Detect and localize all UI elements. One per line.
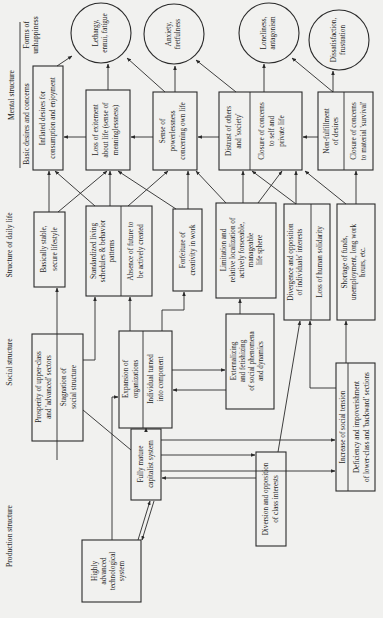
box-loss-of-excitement: Loss of exitement about life (sense of m… — [86, 90, 130, 170]
unhappiness-circles: Lethargy, ennui, fatigue Anxiety, fretfu… — [71, 3, 369, 70]
svg-text:of individuals' interests: of individuals' interests — [296, 228, 304, 295]
svg-text:be actively created: be actively created — [137, 224, 145, 278]
box-powerlessness: Sense of powerlessness concerning own li… — [153, 92, 197, 170]
circle-lethargy: Lethargy, ennui, fatigue — [71, 3, 131, 63]
svg-text:schedules & behavior: schedules & behavior — [99, 219, 107, 282]
svg-text:to material 'survival': to material 'survival' — [360, 102, 368, 160]
svg-text:Loss of exitement: Loss of exitement — [92, 104, 100, 156]
box-capitalist-system: Fully mature capitalist system — [131, 429, 161, 500]
svg-text:life sphere: life sphere — [256, 235, 264, 265]
label-daily-life: Structure of daily life — [5, 212, 14, 278]
svg-text:secure lifestyle: secure lifestyle — [51, 227, 59, 270]
daily-life-boxes: Basically stable, secure lifestyle Stand… — [34, 203, 375, 320]
svg-text:consumption and enjoyment: consumption and enjoyment — [49, 77, 57, 158]
box-inflated-desires: Inflated desires for consumption and enj… — [33, 66, 63, 170]
svg-text:Lethargy,: Lethargy, — [92, 19, 100, 46]
svg-text:actively forseeable,: actively forseeable, — [238, 222, 246, 278]
label-forms-2: unhappiness — [31, 16, 40, 54]
svg-text:and 'advanced' sectors: and 'advanced' sectors — [45, 355, 53, 419]
social-boxes: Prosperity of upper-class and 'advanced'… — [32, 314, 375, 491]
circle-loneliness: Loneliness, antagonism — [239, 3, 299, 63]
svg-text:Distrust of others: Distrust of others — [225, 106, 233, 156]
svg-text:unemployment, long work: unemployment, long work — [350, 224, 358, 300]
svg-text:hours, etc.: hours, etc. — [359, 247, 367, 277]
svg-text:Expansion of: Expansion of — [122, 359, 130, 398]
svg-text:ennui, fatigue: ennui, fatigue — [101, 13, 109, 53]
circle-dissatisfaction: Dissatisfaction, frustration — [309, 10, 369, 70]
box-stable-lifestyle: Basically stable, secure lifestyle — [34, 212, 65, 287]
svg-text:manageable: manageable — [247, 233, 255, 267]
box-diversion-class: Diversion and opposition of class intere… — [256, 452, 286, 546]
svg-text:powerlessness: powerlessness — [169, 110, 177, 151]
svg-text:of desires: of desires — [332, 117, 340, 145]
svg-text:creativity in work: creativity in work — [189, 224, 197, 276]
box-limitation: Limitation and relative localization of … — [216, 203, 276, 298]
svg-text:Highly: Highly — [91, 561, 99, 581]
svg-text:Basically stable,: Basically stable, — [40, 225, 48, 272]
svg-text:Individual turned: Individual turned — [147, 354, 155, 404]
svg-text:Increase of social tension: Increase of social tension — [339, 390, 347, 463]
svg-text:Loss of human solidarity: Loss of human solidarity — [316, 226, 324, 298]
svg-text:technological: technological — [109, 552, 117, 591]
row-labels: Mental structure Forms of unhappiness Ba… — [5, 16, 40, 567]
svg-text:Non-fulfillment: Non-fulfillment — [323, 108, 331, 154]
svg-text:Dissatisfaction,: Dissatisfaction, — [330, 18, 338, 63]
label-forms-1: Forms of — [22, 21, 31, 49]
svg-text:social structure: social structure — [70, 365, 78, 409]
svg-text:Loneliness,: Loneliness, — [260, 16, 268, 49]
svg-text:to self and: to self and — [268, 116, 276, 146]
svg-text:Absence of future to: Absence of future to — [127, 221, 135, 280]
label-mental-structure: Mental structure — [7, 69, 16, 120]
box-distrust-closure: Distrust of others and 'society' Closure… — [219, 92, 302, 170]
label-basic-desires: Basic desires and concerns — [22, 83, 31, 165]
box-tension-deficiency: Increase of social tension Deficiency an… — [336, 363, 375, 491]
svg-text:fretfulness: fretfulness — [174, 19, 182, 50]
svg-text:of class interests: of class interests — [272, 475, 280, 523]
svg-text:Inflated desires for: Inflated desires for — [39, 90, 47, 145]
svg-text:frustration: frustration — [339, 25, 347, 55]
circle-anxiety: Anxiety, fretfulness — [144, 4, 204, 64]
svg-text:Diversion and opposition: Diversion and opposition — [262, 462, 270, 535]
svg-text:private life: private life — [278, 115, 286, 146]
svg-text:Fully mature: Fully mature — [137, 446, 145, 483]
svg-text:capitalist system: capitalist system — [147, 440, 155, 488]
box-expansion-individual: Expansion of organizations Individual tu… — [119, 331, 172, 428]
svg-text:relative localization of: relative localization of — [229, 217, 237, 282]
svg-text:about life (sense of: about life (sense of — [102, 102, 110, 157]
svg-text:Standardized living: Standardized living — [90, 223, 98, 279]
svg-text:of social phenomena: of social phenomena — [248, 330, 256, 390]
box-divergence-solidarity: Divergence and opposition of individuals… — [284, 204, 330, 320]
svg-text:into component: into component — [157, 357, 165, 402]
box-technological-system: Highly advanced technological system — [82, 540, 141, 602]
box-nonfulfillment-survival: Non-fulfillment of desires Closure of co… — [318, 92, 373, 170]
svg-text:patterns: patterns — [108, 239, 116, 262]
svg-text:Shortage of funds,: Shortage of funds, — [341, 235, 349, 288]
svg-text:Sense of: Sense of — [159, 118, 167, 143]
svg-text:Externalizing: Externalizing — [230, 341, 238, 380]
flow-diagram: Mental structure Forms of unhappiness Ba… — [0, 0, 383, 618]
label-production-structure: Production structure — [5, 504, 14, 566]
svg-text:concerning own life: concerning own life — [179, 102, 187, 159]
svg-text:and dynamics: and dynamics — [257, 341, 265, 381]
svg-text:of lower-class and 'backward': of lower-class and 'backward' sections — [363, 372, 371, 482]
diagram-canvas: Mental structure Forms of unhappiness Ba… — [0, 0, 383, 618]
svg-text:Closure of concerns: Closure of concerns — [350, 102, 358, 160]
svg-text:organizations: organizations — [132, 360, 140, 399]
svg-text:Deficiency and impoverishment: Deficiency and impoverishment — [353, 381, 361, 473]
svg-text:system: system — [118, 561, 126, 581]
box-prosperity-stagnation: Prosperity of upper-class and 'advanced'… — [32, 334, 83, 441]
svg-text:and fetishizing: and fetishizing — [239, 339, 247, 382]
box-standardized-absence: Standardized living schedules & behavior… — [86, 206, 152, 296]
svg-text:Prosperity of upper-class: Prosperity of upper-class — [35, 351, 43, 423]
svg-text:and 'society': and 'society' — [235, 113, 243, 148]
svg-text:Closure of concerns: Closure of concerns — [258, 102, 266, 160]
label-social-structure: Social structure — [5, 338, 14, 386]
svg-text:Divergence and opposition: Divergence and opposition — [287, 223, 295, 301]
box-externalizing: Externalizing and fetishizing of social … — [226, 314, 274, 409]
svg-text:antagonism: antagonism — [269, 16, 277, 50]
desires-boxes: Inflated desires for consumption and enj… — [33, 66, 373, 170]
box-forfeiture: Forfeiture of creativity in work — [173, 209, 202, 291]
svg-text:meaninglessness): meaninglessness) — [112, 104, 120, 155]
box-shortage: Shortage of funds, unemployment, long wo… — [337, 204, 375, 320]
svg-text:Forfeiture of: Forfeiture of — [179, 231, 187, 268]
